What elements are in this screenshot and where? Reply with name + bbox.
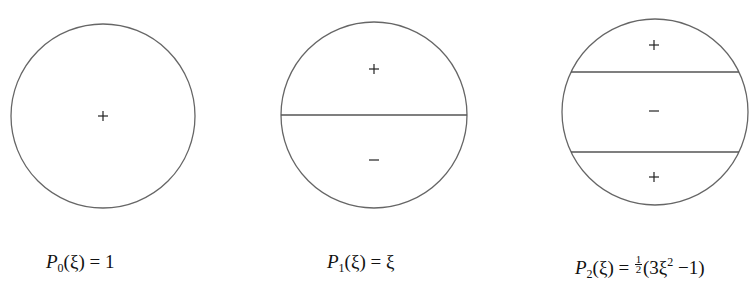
panel-p0 — [11, 24, 195, 208]
formula-p2: P2(ξ) = 12(3ξ2 −1) — [575, 250, 705, 286]
panel-p2 — [562, 19, 748, 205]
plus-sign-icon — [649, 40, 659, 50]
plus-sign-icon — [98, 111, 108, 121]
plus-sign-icon — [649, 172, 659, 182]
plus-sign-icon — [369, 64, 379, 74]
panel-p1 — [281, 22, 467, 208]
legendre-diagram — [0, 0, 756, 290]
one-half-fraction: 12 — [635, 255, 642, 274]
formula-p0: P0(ξ) = 1 — [46, 250, 114, 280]
formula-p1: P1(ξ) = ξ — [327, 250, 394, 280]
